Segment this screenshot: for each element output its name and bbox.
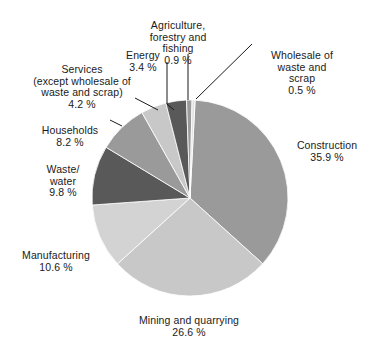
slice-label-waste-water: Waste/ water 9.8 % xyxy=(26,152,100,211)
slice-label-mining-value: 26.6 % xyxy=(118,327,260,339)
slice-label-services-value: 4.2 % xyxy=(8,99,156,111)
slice-label-manufacturing-value: 10.6 % xyxy=(2,262,110,274)
slice-label-wholesale: Wholesale of waste and scrap 0.5 % xyxy=(254,38,350,109)
slice-label-services-name: Services (except wholesale of waste and … xyxy=(33,63,131,99)
pie-chart: Agriculture, forestry and fishing 0.9 % … xyxy=(0,0,371,348)
slice-label-construction: Construction 35.9 % xyxy=(284,128,370,175)
slice-label-construction-name: Construction xyxy=(297,139,357,151)
slice-label-manufacturing: Manufacturing 10.6 % xyxy=(2,238,110,285)
slice-label-mining: Mining and quarrying 26.6 % xyxy=(118,303,260,348)
slice-label-construction-value: 35.9 % xyxy=(284,152,370,164)
slice-label-wholesale-value: 0.5 % xyxy=(254,85,350,97)
slice-label-households-value: 8.2 % xyxy=(24,137,116,149)
slice-label-waste-water-name: Waste/ water xyxy=(47,163,80,187)
slice-label-wholesale-name: Wholesale of waste and scrap xyxy=(271,49,333,85)
slice-label-manufacturing-name: Manufacturing xyxy=(22,249,90,261)
slice-label-mining-name: Mining and quarrying xyxy=(139,314,239,326)
slice-label-waste-water-value: 9.8 % xyxy=(26,187,100,199)
pie-slice-group xyxy=(92,100,288,296)
slice-label-households-name: Households xyxy=(42,124,98,136)
